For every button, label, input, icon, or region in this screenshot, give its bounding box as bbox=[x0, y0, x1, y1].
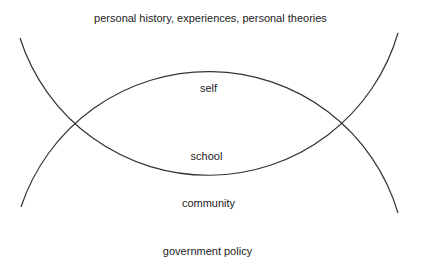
label-school: school bbox=[0, 150, 417, 163]
label-community: community bbox=[0, 197, 419, 210]
label-self: self bbox=[0, 82, 419, 95]
arcs-canvas bbox=[0, 0, 421, 265]
influence-diagram: personal history, experiences, personal … bbox=[0, 0, 421, 265]
label-personal-history: personal history, experiences, personal … bbox=[0, 12, 421, 25]
label-government-policy: government policy bbox=[0, 245, 418, 258]
